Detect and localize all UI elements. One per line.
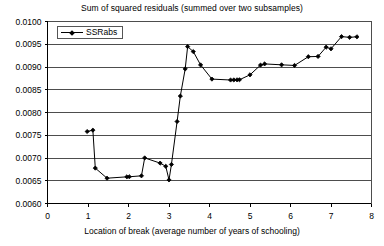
svg-text:6: 6 — [288, 211, 293, 221]
svg-text:0.0065: 0.0065 — [16, 176, 42, 186]
legend-line-marker-icon — [61, 28, 83, 37]
svg-text:3: 3 — [167, 211, 172, 221]
svg-text:0.0075: 0.0075 — [16, 130, 42, 140]
svg-text:0.0095: 0.0095 — [16, 39, 42, 49]
svg-text:0.0090: 0.0090 — [16, 62, 42, 72]
svg-text:1: 1 — [86, 211, 91, 221]
x-axis-title: Location of break (average number of yea… — [0, 226, 384, 237]
series-markers-ssrabs — [85, 35, 359, 183]
x-axis-tick-labels: 012345678 — [45, 211, 374, 221]
svg-text:0.0100: 0.0100 — [16, 17, 42, 27]
svg-text:4: 4 — [207, 211, 212, 221]
svg-text:0: 0 — [45, 211, 50, 221]
svg-text:0.0080: 0.0080 — [16, 108, 42, 118]
grid-lines — [48, 22, 372, 204]
legend-label-ssrabs: SSRabs — [86, 28, 117, 37]
svg-text:8: 8 — [369, 211, 374, 221]
y-axis-tick-labels: 0.00600.00650.00700.00750.00800.00850.00… — [16, 17, 42, 209]
svg-text:0.0060: 0.0060 — [16, 199, 42, 209]
svg-text:0.0070: 0.0070 — [16, 153, 42, 163]
svg-text:5: 5 — [248, 211, 253, 221]
svg-text:7: 7 — [329, 211, 334, 221]
chart-container: Sum of squared residuals (summed over tw… — [0, 0, 384, 246]
svg-text:2: 2 — [126, 211, 131, 221]
svg-text:0.0085: 0.0085 — [16, 85, 42, 95]
chart-legend: SSRabs — [57, 26, 123, 39]
